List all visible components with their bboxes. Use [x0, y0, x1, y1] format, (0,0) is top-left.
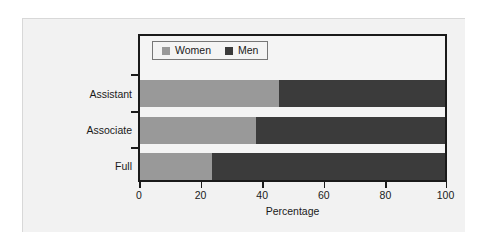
x-axis-tick [201, 182, 203, 188]
y-axis-tick [131, 74, 138, 76]
x-axis-tick [385, 182, 387, 188]
x-tick-label-20: 20 [181, 189, 221, 201]
legend-entry-women: Women [162, 45, 211, 56]
bar-row-full [140, 153, 445, 180]
bar-segment-associate-men [256, 117, 445, 144]
x-axis-tick [324, 182, 326, 188]
y-axis-tick [131, 111, 138, 113]
bar-segment-full-women [140, 153, 212, 180]
legend-label-men: Men [238, 45, 258, 56]
bar-segment-assistant-men [279, 80, 445, 107]
bar-row-associate [140, 117, 445, 144]
figure: Assistant Associate Full [0, 0, 479, 249]
x-tick-label-80: 80 [365, 189, 405, 201]
y-tick-label-associate: Associate [12, 124, 132, 136]
x-axis-tick [262, 182, 264, 188]
bar-segment-full-men [212, 153, 445, 180]
legend-swatch-men-icon [225, 47, 233, 55]
x-tick-label-40: 40 [242, 189, 282, 201]
stacked-bar-chart: Assistant Associate Full [0, 0, 479, 249]
x-tick-label-60: 60 [304, 189, 344, 201]
chart-legend: Women Men [152, 41, 268, 60]
legend-entry-men: Men [225, 45, 258, 56]
bar-segment-associate-women [140, 117, 256, 144]
legend-label-women: Women [175, 45, 211, 56]
bar-row-assistant [140, 80, 445, 107]
x-tick-label-0: 0 [119, 189, 159, 201]
bar-segment-assistant-women [140, 80, 279, 107]
x-axis-tick [446, 182, 448, 188]
y-tick-label-assistant: Assistant [12, 88, 132, 100]
y-axis-tick [131, 147, 138, 149]
legend-swatch-women-icon [162, 47, 170, 55]
x-axis-title: Percentage [138, 205, 447, 217]
x-axis-tick [139, 182, 141, 188]
y-tick-label-full: Full [12, 160, 132, 172]
x-tick-label-100: 100 [426, 189, 466, 201]
